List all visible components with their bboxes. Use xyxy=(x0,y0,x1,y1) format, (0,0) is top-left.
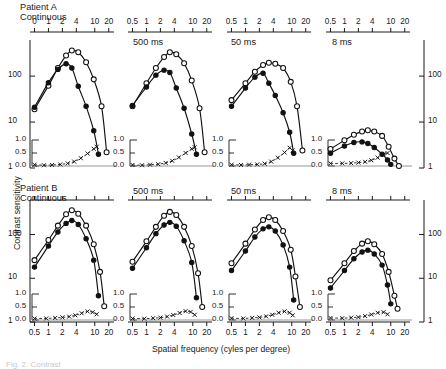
panel-4-point-filled xyxy=(76,222,80,226)
panel-2-point-filled xyxy=(243,86,247,90)
panel-4-point-filled xyxy=(70,218,74,222)
panel-6-inset-label-0: 1.0 xyxy=(212,289,223,298)
panel-2-xtick-5: 20 xyxy=(301,17,310,26)
panel-2-point-open xyxy=(295,104,300,109)
panel-5-bottom-xtick-4: 10 xyxy=(188,328,197,337)
panel-1-xtick-3: 4 xyxy=(172,17,177,26)
panel-1-curve-ratio xyxy=(132,147,194,165)
panel-2-point-filled xyxy=(267,81,271,85)
row-1-right-ytick-label-1: 10 xyxy=(428,272,437,281)
panel-0-point-filled xyxy=(56,67,60,71)
panel-5-point-cross xyxy=(189,310,193,314)
panel-6-point-filled xyxy=(253,235,257,239)
panel-7-bottom-xtick-3: 4 xyxy=(370,328,375,337)
panel-0-curve-filled-circle xyxy=(34,64,98,154)
panel-3-point-open xyxy=(360,129,365,134)
panel-5-point-open xyxy=(182,224,187,229)
panel-4-point-filled xyxy=(92,258,96,262)
panel-5-point-cross xyxy=(178,311,182,315)
panel-3-point-filled xyxy=(372,145,376,149)
panel-3-inset-label-0: 1.0 xyxy=(311,135,322,144)
panel-7-curve-filled-circle xyxy=(330,250,390,304)
panel-4-point-filled xyxy=(56,230,60,234)
panel-6-inset-label-1: 0.5 xyxy=(212,302,223,311)
panel-2-point-filled xyxy=(281,110,285,114)
panel-0-inset-label-1: 0.5 xyxy=(15,148,26,157)
panel-5-curve-ratio xyxy=(132,311,194,319)
row-1-ytick-label-2: 1 xyxy=(8,316,13,325)
row-1-right-ytick-label-2: 1 xyxy=(428,316,433,325)
panel-0-xtick-5: 20 xyxy=(104,17,113,26)
panel-3-point-filled xyxy=(352,140,356,144)
panel-7-point-open xyxy=(328,278,333,283)
panel-1-point-cross xyxy=(184,151,188,155)
panel-6-point-filled xyxy=(287,265,291,269)
panel-0-point-open xyxy=(64,53,69,58)
panel-2-point-cross xyxy=(283,150,287,154)
panel-5-point-filled xyxy=(182,239,186,243)
panel-5-bottom-xtick-5: 20 xyxy=(202,328,211,337)
panel-2-point-cross xyxy=(269,160,273,164)
panel-0-point-filled xyxy=(70,66,74,70)
panel-5-point-open xyxy=(144,239,149,244)
panel-2-inset-label-0: 1.0 xyxy=(212,135,223,144)
panel-0-inset-label-0: 1.0 xyxy=(15,135,26,144)
panel-6-curve-open-circle xyxy=(231,217,299,307)
panel-5-point-open xyxy=(167,209,172,214)
panel-7-point-filled xyxy=(366,248,370,252)
panel-7-point-filled xyxy=(360,250,364,254)
panel-4-point-open xyxy=(55,223,60,228)
panel-4-point-open xyxy=(76,211,81,216)
panel-6-bottom-xtick-1: 1 xyxy=(243,328,248,337)
panel-4-bottom-xtick-2: 2 xyxy=(60,328,65,337)
panel-5-point-open xyxy=(189,243,194,248)
panel-6-bottom-xtick-4: 10 xyxy=(287,328,296,337)
panel-0-point-open xyxy=(99,104,104,109)
panel-7-point-filled xyxy=(385,283,389,287)
panel-4-point-filled xyxy=(46,244,50,248)
panel-3-point-open xyxy=(365,128,370,133)
panel-6-point-open xyxy=(293,274,298,279)
panel-6-inset-label-2: 0.0 xyxy=(212,315,223,324)
panel-7-point-filled xyxy=(389,302,393,306)
panel-4-point-open xyxy=(102,304,107,309)
panel-2-xtick-2: 2 xyxy=(257,17,262,26)
panel-2-point-open xyxy=(273,61,278,66)
panel-5-point-open xyxy=(162,213,167,218)
panel-5-curve-open-circle xyxy=(132,212,202,307)
panel-4-point-cross xyxy=(95,312,99,316)
panel-7-point-cross xyxy=(386,312,390,316)
panel-2-curve-ratio xyxy=(231,148,292,165)
panel-3-point-filled xyxy=(389,162,393,166)
panel-2-point-filled xyxy=(253,75,257,79)
panel-5-bottom-xtick-3: 4 xyxy=(172,328,177,337)
panel-2-point-open xyxy=(288,79,293,84)
panel-3-point-open xyxy=(386,144,391,149)
panel-5-bottom-xtick-1: 1 xyxy=(144,328,149,337)
panel-6-point-filled xyxy=(267,225,271,229)
figure-root: Contrast sensitivity Patient A Continuou… xyxy=(0,0,446,369)
panel-5-inset-label-2: 0.0 xyxy=(113,315,124,324)
panel-4-point-open xyxy=(46,238,51,243)
row-0-ytick-label-2: 1 xyxy=(8,162,13,171)
panel-0-point-cross xyxy=(86,152,90,156)
row-0-right-ytick-label-0: 100 xyxy=(428,70,442,79)
panel-7-bottom-xtick-5: 20 xyxy=(400,328,409,337)
panel-0-inset-label-2: 0.0 xyxy=(15,161,26,170)
row-0-right-ytick-label-1: 10 xyxy=(428,116,437,125)
plot-canvas xyxy=(0,0,446,369)
panel-1-point-open xyxy=(182,61,187,66)
panel-6-point-open xyxy=(252,227,257,232)
row-1-ytick-label-1: 10 xyxy=(8,272,17,281)
panel-2-point-open xyxy=(281,66,286,71)
panel-4-point-open xyxy=(32,258,37,263)
panel-1-inset-label-0: 1.0 xyxy=(113,135,124,144)
panel-1-point-filled xyxy=(144,85,148,89)
panel-1-point-open xyxy=(174,52,179,57)
panel-0-point-filled xyxy=(96,152,100,156)
panel-3-point-open xyxy=(396,164,401,169)
panel-2-point-open xyxy=(300,148,305,153)
panel-7-point-open xyxy=(360,241,365,246)
panel-7-point-filled xyxy=(380,263,384,267)
panel-4-bottom-xtick-4: 10 xyxy=(90,328,99,337)
